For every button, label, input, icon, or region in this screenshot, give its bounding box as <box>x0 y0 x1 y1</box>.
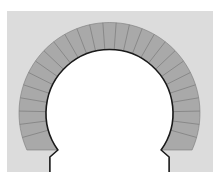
arch-svg <box>0 0 218 174</box>
horseshoe-arch-diagram <box>0 0 218 174</box>
